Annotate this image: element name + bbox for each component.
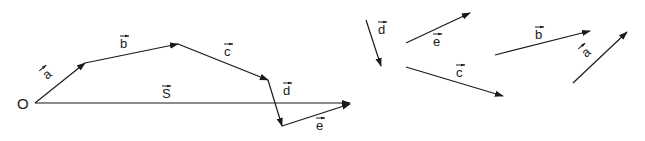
- vector-label-text: d: [283, 83, 290, 98]
- vector-label: S: [162, 86, 171, 101]
- chain-vector-b: b: [85, 36, 178, 63]
- vector-arrow-line: [85, 44, 178, 63]
- vector-label-text: S: [162, 86, 171, 101]
- vector-label: a: [39, 65, 56, 82]
- vector-label: e: [433, 34, 442, 49]
- vector-label-text: a: [578, 44, 594, 61]
- vector-label: c: [224, 44, 233, 59]
- vector-label: a: [578, 43, 595, 60]
- vector-label-text: e: [433, 34, 440, 49]
- vector-label: e: [316, 118, 325, 133]
- vector-label: b: [120, 36, 129, 51]
- vector-arrow-line: [573, 32, 627, 83]
- vector-chain: abcde: [35, 36, 350, 133]
- vector-label-text: c: [224, 44, 231, 59]
- vector-label-text: e: [316, 118, 323, 133]
- vector-diagram: O abcde S decba: [0, 0, 645, 141]
- resultant-vector-s: S: [35, 86, 350, 103]
- free-vector-a: a: [573, 32, 627, 83]
- free-vector-d: d: [366, 20, 387, 66]
- chain-vector-a: a: [35, 63, 85, 103]
- free-vector-e: e: [406, 13, 470, 49]
- resultant-vector-s: S: [35, 86, 350, 103]
- vector-label-text: d: [378, 22, 385, 37]
- vector-label: b: [535, 27, 544, 42]
- vector-label: c: [456, 65, 465, 80]
- vector-label-text: c: [456, 65, 463, 80]
- vector-label-text: b: [535, 27, 542, 42]
- vector-label-text: a: [39, 66, 55, 83]
- vector-label-text: b: [120, 36, 127, 51]
- vector-label: d: [378, 22, 387, 37]
- chain-vector-c: c: [178, 44, 268, 80]
- vector-arrow-line: [178, 44, 268, 80]
- free-vector-c: c: [406, 65, 503, 96]
- vector-arrow-line: [495, 31, 590, 55]
- free-vector-b: b: [495, 27, 590, 55]
- vector-label: d: [283, 83, 292, 98]
- free-vectors: decba: [366, 13, 627, 96]
- vector-arrow-line: [406, 67, 503, 96]
- origin-label: O: [17, 95, 29, 112]
- origin-point: O: [17, 95, 29, 112]
- chain-vector-e: e: [282, 104, 350, 133]
